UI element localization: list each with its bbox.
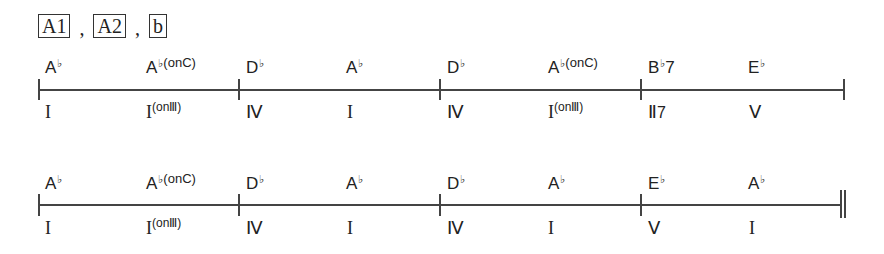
flat-icon: ♭ (57, 57, 62, 69)
chord-symbol: A♭(onC) (146, 59, 196, 78)
roman-numeral: Ⅴ (648, 219, 660, 237)
flat-icon: ♭ (760, 57, 765, 69)
barline (38, 194, 40, 216)
barline (38, 79, 40, 100)
chord-symbol: D♭ (447, 175, 465, 194)
section-labels: A1 , A2 , b (38, 14, 167, 38)
roman-numeral: I(onⅢ) (548, 103, 583, 123)
barline (640, 79, 642, 100)
flat-icon: ♭ (560, 173, 565, 185)
barline (439, 79, 441, 100)
flat-icon: ♭ (460, 57, 465, 69)
staff-line (39, 89, 845, 91)
section-label-a1: A1 (38, 14, 70, 38)
chord-symbol: A♭ (45, 59, 62, 78)
roman-numeral: I (45, 219, 51, 237)
separator: , (79, 17, 84, 40)
chord-symbol: A♭(onC) (146, 175, 196, 194)
chord-symbol: A♭ (346, 175, 363, 194)
double-barline-2 (844, 190, 846, 218)
roman-numeral: Ⅴ (749, 103, 761, 121)
barline (439, 194, 441, 216)
flat-icon: ♭ (358, 57, 363, 69)
roman-numeral: Ⅳ (246, 103, 263, 121)
roman-numeral: Ⅱ7 (648, 103, 666, 122)
roman-numeral: Ⅳ (447, 103, 464, 121)
roman-numeral: I(onⅢ) (146, 103, 181, 123)
chord-symbol: E♭ (748, 59, 765, 78)
double-barline-1 (840, 190, 842, 218)
flat-icon: ♭ (259, 173, 264, 185)
chord-symbol: A♭ (45, 175, 62, 194)
roman-numeral: I (347, 103, 353, 121)
flat-icon: ♭ (760, 173, 765, 185)
flat-icon: ♭ (660, 57, 665, 69)
chord-symbol: A♭ (548, 175, 565, 194)
roman-numeral: I(onⅢ) (146, 219, 181, 239)
roman-numeral: I (749, 219, 755, 237)
barline (238, 194, 240, 216)
chord-symbol: D♭ (246, 59, 264, 78)
chord-symbol: D♭ (246, 175, 264, 194)
roman-numeral: I (347, 219, 353, 237)
chord-symbol: A♭ (346, 59, 363, 78)
roman-numeral: I (45, 103, 51, 121)
flat-icon: ♭ (358, 173, 363, 185)
chord-symbol: A♭(onC) (548, 59, 598, 78)
chord-symbol: B♭7 (648, 59, 675, 78)
flat-icon: ♭ (57, 173, 62, 185)
section-label-a2: A2 (93, 14, 125, 38)
roman-numeral: Ⅳ (246, 219, 263, 237)
flat-icon: ♭ (460, 173, 465, 185)
section-label-b: b (149, 14, 167, 38)
separator: , (135, 17, 140, 40)
chord-symbol: D♭ (447, 59, 465, 78)
flat-icon: ♭ (259, 57, 264, 69)
chord-symbol: A♭ (748, 175, 765, 194)
roman-numeral: I (548, 219, 554, 237)
barline (238, 79, 240, 100)
flat-icon: ♭ (660, 173, 665, 185)
chord-symbol: E♭ (648, 175, 665, 194)
barline (640, 194, 642, 216)
roman-numeral: Ⅳ (447, 219, 464, 237)
barline-end (843, 79, 845, 100)
